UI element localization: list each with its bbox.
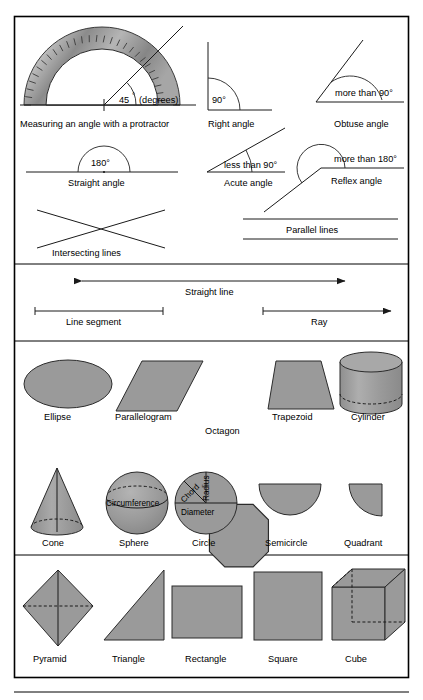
cylinder-shape-group: Cylinder — [340, 352, 402, 422]
straight-angle-diagram: 180° Straight angle — [26, 146, 178, 188]
ellipse-caption: Ellipse — [44, 412, 71, 422]
circle-diameter-label: Diameter — [181, 508, 214, 517]
circle-caption: Circle — [192, 538, 215, 548]
line-segment-diagram: Line segment — [35, 311, 163, 327]
ray-caption: Ray — [311, 317, 328, 327]
triangle-shape — [104, 570, 164, 640]
reflex-angle-slanted-arm — [264, 168, 321, 212]
acute-angle-caption: Acute angle — [224, 178, 273, 188]
obtuse-angle-caption: Obtuse angle — [334, 119, 389, 129]
reflex-angle-value-label: more than 180° — [334, 154, 397, 164]
protractor-caption: Measuring an angle with a protractor — [20, 119, 169, 129]
trapezoid-shape-group: Trapezoid — [268, 361, 334, 422]
sphere-caption: Sphere — [119, 538, 149, 548]
rectangle-shape — [172, 586, 242, 638]
straight-angle-vertex-dot — [103, 171, 105, 173]
protractor-diagram: 45 ° (degrees) Measuring an angle with a… — [20, 26, 196, 129]
cube-shape-group: Cube — [332, 569, 405, 664]
geometry-chart-sheet: 45 ° (degrees) Measuring an angle with a… — [0, 0, 423, 700]
intersecting-lines-diagram: Intersecting lines — [37, 210, 165, 258]
parallelogram-shape-group: Parallelogram — [115, 361, 203, 422]
pyramid-shape-group: Pyramid — [23, 570, 93, 664]
circle-radius-label: Radius — [202, 476, 211, 502]
obtuse-angle-diagram: more than 90° Obtuse angle — [316, 40, 404, 129]
sphere-circumference-label: Circumference — [106, 499, 160, 508]
trapezoid-caption: Trapezoid — [272, 412, 313, 422]
trapezoid-shape — [268, 361, 334, 409]
square-caption: Square — [268, 654, 298, 664]
cone-caption: Cone — [42, 538, 64, 548]
pyramid-caption: Pyramid — [33, 654, 67, 664]
parallelogram-shape — [116, 361, 203, 411]
cylinder-caption: Cylinder — [351, 412, 385, 422]
ellipse-shape-group: Ellipse — [24, 360, 112, 422]
straight-angle-value-label: 180° — [91, 158, 110, 168]
right-angle-arc — [208, 78, 240, 110]
reflex-angle-diagram: more than 180° Reflex angle — [264, 144, 404, 212]
obtuse-angle-value-label: more than 90° — [335, 88, 393, 98]
rectangle-caption: Rectangle — [185, 654, 226, 664]
rectangle-shape-group: Rectangle — [172, 586, 242, 664]
triangle-shape-group: Triangle — [104, 570, 164, 664]
semicircle-shape-group: Semicircle — [259, 484, 321, 548]
acute-angle-diagram: less than 90° Acute angle — [207, 128, 285, 188]
acute-angle-value-label: less than 90° — [224, 160, 278, 170]
right-angle-caption: Right angle — [208, 119, 254, 129]
geometry-figure: 45 ° (degrees) Measuring an angle with a… — [0, 0, 423, 700]
protractor-value-label: 45 — [119, 95, 129, 105]
parallel-lines-diagram: Parallel lines — [243, 219, 398, 239]
sphere-shape-group: Circumference Sphere — [106, 472, 168, 548]
parallelogram-caption: Parallelogram — [115, 412, 172, 422]
ellipse-shape — [24, 360, 112, 408]
triangle-caption: Triangle — [112, 654, 145, 664]
square-shape-group: Square — [254, 572, 322, 664]
reflex-angle-caption: Reflex angle — [331, 176, 382, 186]
parallel-lines-caption: Parallel lines — [286, 225, 338, 235]
right-angle-value-label: 90° — [212, 95, 226, 105]
right-angle-diagram: 90° Right angle — [208, 42, 272, 129]
quadrant-shape — [349, 484, 382, 516]
quadrant-caption: Quadrant — [344, 538, 383, 548]
ray-diagram: Ray — [263, 311, 391, 327]
cube-caption: Cube — [345, 654, 367, 664]
cone-shape-group: Cone — [31, 468, 83, 548]
octagon-caption: Octagon — [205, 426, 240, 436]
straight-line-diagram: Straight line — [82, 281, 345, 297]
line-segment-caption: Line segment — [66, 317, 122, 327]
cylinder-top-ellipse — [340, 352, 402, 372]
quadrant-shape-group: Quadrant — [344, 484, 383, 548]
intersecting-lines-caption: Intersecting lines — [52, 248, 121, 258]
straight-line-caption: Straight line — [185, 287, 234, 297]
protractor-unit-note: (degrees) — [139, 95, 178, 105]
protractor-degree-symbol: ° — [132, 91, 135, 100]
cube-front-face — [332, 587, 385, 640]
square-shape — [254, 572, 322, 640]
straight-angle-caption: Straight angle — [68, 178, 125, 188]
semicircle-shape — [259, 484, 321, 515]
semicircle-caption: Semicircle — [265, 538, 307, 548]
